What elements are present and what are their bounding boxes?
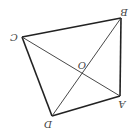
- edge-cd: [22, 37, 52, 116]
- label-b: B: [120, 7, 128, 18]
- label-o: O: [78, 60, 86, 71]
- label-a: A: [118, 99, 126, 110]
- diagonal-ca: [22, 37, 120, 96]
- diagonals: [22, 18, 121, 116]
- edge-ab: [120, 18, 121, 96]
- label-d: D: [44, 119, 53, 130]
- edge-bc: [22, 18, 121, 37]
- label-c: C: [10, 32, 18, 43]
- edge-da: [52, 96, 120, 116]
- geometry-diagram: B C D A O: [0, 0, 136, 130]
